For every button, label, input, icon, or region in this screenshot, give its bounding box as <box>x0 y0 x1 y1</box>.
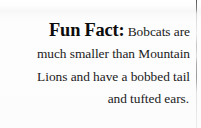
scanned-page: Fun Fact: Bobcats are much smaller than … <box>0 0 201 128</box>
column-divider-rule <box>196 0 197 128</box>
fun-fact-callout: Fun Fact: Bobcats are much smaller than … <box>0 19 190 110</box>
fact-line-3: Lions and have a bobbed tail <box>0 66 190 88</box>
fact-line-1-text: Bobcats are <box>124 24 190 39</box>
fun-fact-label: Fun Fact: <box>49 20 124 40</box>
fact-line-2: much smaller than Mountain <box>0 43 190 65</box>
fact-line-4: and tufted ears. <box>0 88 190 110</box>
fact-line-1: Fun Fact: Bobcats are <box>0 19 190 43</box>
